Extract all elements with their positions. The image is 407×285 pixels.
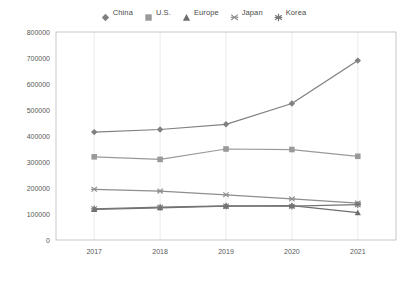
svg-text:800000: 800000	[27, 29, 50, 36]
svg-text:2018: 2018	[152, 248, 168, 255]
asterisk-marker-icon	[157, 204, 164, 211]
square-marker-icon	[91, 154, 97, 160]
svg-text:100000: 100000	[27, 211, 50, 218]
svg-text:400000: 400000	[27, 133, 50, 140]
x-axis-labels: 20172018201920202021	[86, 248, 365, 255]
diamond-marker-icon	[157, 126, 163, 132]
plot-area: 0100000200000300000400000500000600000700…	[0, 0, 407, 285]
square-marker-icon	[223, 146, 229, 152]
svg-text:200000: 200000	[27, 185, 50, 192]
svg-text:2019: 2019	[218, 248, 234, 255]
svg-text:500000: 500000	[27, 107, 50, 114]
square-marker-icon	[355, 153, 361, 159]
square-marker-icon	[289, 147, 295, 153]
asterisk-marker-icon	[223, 203, 230, 210]
svg-text:300000: 300000	[27, 159, 50, 166]
svg-text:0: 0	[46, 237, 50, 244]
svg-text:2017: 2017	[86, 248, 102, 255]
diamond-marker-icon	[91, 129, 97, 135]
y-axis-labels: 0100000200000300000400000500000600000700…	[27, 29, 50, 244]
svg-text:2021: 2021	[350, 248, 366, 255]
diamond-marker-icon	[289, 100, 295, 106]
line-chart: China U.S. Europe Japan	[0, 0, 407, 285]
diamond-marker-icon	[355, 57, 361, 63]
asterisk-marker-icon	[354, 201, 361, 208]
square-marker-icon	[157, 157, 163, 163]
asterisk-marker-icon	[289, 203, 296, 210]
svg-text:2020: 2020	[284, 248, 300, 255]
diamond-marker-icon	[223, 121, 229, 127]
asterisk-marker-icon	[91, 206, 98, 213]
svg-text:600000: 600000	[27, 81, 50, 88]
svg-text:700000: 700000	[27, 55, 50, 62]
